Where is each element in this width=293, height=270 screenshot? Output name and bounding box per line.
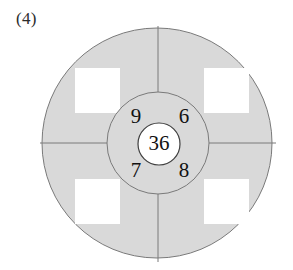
outer-square-top-right — [204, 68, 249, 113]
puzzle-diagram: 9 6 7 8 36 — [0, 0, 293, 270]
center-value: 36 — [149, 131, 170, 155]
quadrant-value-bottom-left: 7 — [131, 158, 142, 182]
outer-square-bottom-right — [204, 179, 249, 224]
quadrant-value-top-right: 6 — [179, 104, 190, 128]
quadrant-value-bottom-right: 8 — [179, 158, 190, 182]
outer-square-bottom-left — [75, 179, 120, 224]
outer-square-top-left — [75, 68, 120, 113]
figure-root: (4) 9 6 7 8 36 — [0, 0, 293, 270]
quadrant-value-top-left: 9 — [131, 104, 142, 128]
